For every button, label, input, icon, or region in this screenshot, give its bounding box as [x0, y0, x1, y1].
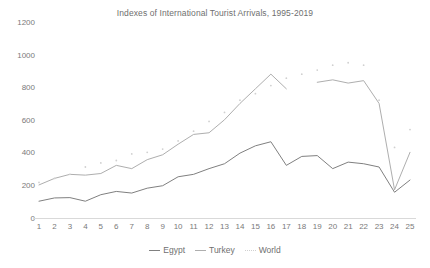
series-line [39, 142, 410, 201]
data-point [316, 69, 318, 71]
data-point [38, 182, 40, 184]
data-point [84, 166, 86, 168]
legend-item-label: Egypt [163, 245, 185, 255]
legend-swatch-icon [195, 250, 206, 251]
data-point [239, 99, 241, 101]
x-axis-tick-label: 7 [130, 222, 134, 231]
x-axis-tick-label: 22 [359, 222, 368, 231]
x-axis-tick-label: 23 [375, 222, 384, 231]
chart-legend: EgyptTurkeyWorld [0, 245, 430, 255]
data-point [162, 148, 164, 150]
legend-item-turkey[interactable]: Turkey [195, 245, 235, 255]
data-point [54, 178, 56, 180]
x-axis-tick-label: 17 [282, 222, 291, 231]
data-point [131, 153, 133, 155]
data-point [100, 162, 102, 164]
data-point [193, 130, 195, 132]
legend-item-label: Turkey [209, 245, 235, 255]
x-axis-tick-label: 8 [145, 222, 149, 231]
x-axis-tick-label: 16 [266, 222, 275, 231]
data-point [69, 173, 71, 175]
data-point [409, 129, 411, 131]
data-point [347, 62, 349, 64]
data-point [378, 99, 380, 101]
x-axis-tick-label: 19 [313, 222, 322, 231]
x-axis-tick-label: 18 [297, 222, 306, 231]
series-world [38, 62, 411, 184]
x-axis-tick-label: 10 [174, 222, 183, 231]
x-axis-tick-label: 24 [390, 222, 399, 231]
data-point [394, 147, 396, 149]
x-axis-tick-label: 21 [344, 222, 353, 231]
x-axis-tick-label: 25 [406, 222, 415, 231]
data-point [224, 112, 226, 114]
x-axis-tick-label: 11 [189, 222, 197, 231]
x-axis-tick-label: 4 [83, 222, 87, 231]
legend-swatch-icon [149, 250, 160, 251]
legend-swatch-icon [245, 250, 256, 251]
x-axis-tick-label: 3 [68, 222, 72, 231]
x-axis-tick-label: 6 [114, 222, 118, 231]
legend-item-label: World [259, 245, 281, 255]
data-point [301, 73, 303, 75]
x-axis-tick-label: 15 [251, 222, 260, 231]
legend-item-world[interactable]: World [245, 245, 281, 255]
x-axis-tick-label: 12 [205, 222, 214, 231]
chart-container: Indexes of International Tourist Arrival… [0, 0, 430, 268]
data-point [146, 151, 148, 153]
series-egypt [39, 142, 410, 201]
data-point [177, 140, 179, 142]
legend-item-egypt[interactable]: Egypt [149, 245, 185, 255]
x-axis-tick-label: 14 [236, 222, 245, 231]
series-line [39, 74, 410, 190]
x-axis-tick-label: 9 [160, 222, 164, 231]
x-axis-tick-label: 5 [99, 222, 103, 231]
data-point [115, 160, 117, 162]
x-axis-tick-label: 20 [328, 222, 337, 231]
series-turkey [39, 74, 410, 190]
data-point [255, 93, 257, 95]
x-axis-tick-label: 1 [37, 222, 41, 231]
data-point [285, 77, 287, 79]
data-point [270, 85, 272, 87]
x-axis-tick-label: 2 [52, 222, 56, 231]
data-point [363, 64, 365, 66]
data-point [208, 120, 210, 122]
x-axis-tick-label: 13 [220, 222, 229, 231]
data-point [332, 64, 334, 66]
